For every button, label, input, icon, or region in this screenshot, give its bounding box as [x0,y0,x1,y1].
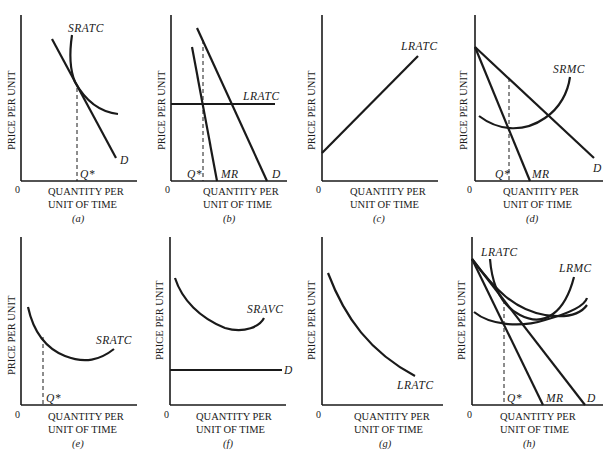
sratc-label: SRATC [68,22,104,34]
panel-caption: (g) [379,438,392,450]
panel-e: PRICE PER UNIT 0 QUANTITY PER UNIT OF TI… [6,237,137,450]
panel-caption: (h) [523,438,536,450]
panel-c: PRICE PER UNIT 0 QUANTITY PER UNIT OF TI… [306,15,438,225]
panel-caption: (a) [72,213,85,225]
q-star-label: Q* [187,168,202,180]
panel-b: PRICE PER UNIT 0 QUANTITY PER UNIT OF TI… [156,15,287,225]
lratc-label: LRATC [480,246,518,258]
mr-line [475,47,530,181]
lrmc-label: LRMC [558,262,592,274]
sratc-label: SRATC [96,334,132,346]
panel-caption: (f) [223,438,233,450]
lratc-line [322,56,418,153]
q-star-label: Q* [507,392,522,404]
panel-a: PRICE PER UNIT 0 QUANTITY PER UNIT OF TI… [6,15,137,225]
x-axis-label-line2: UNIT OF TIME [350,199,419,210]
panel-caption: (c) [373,213,385,225]
x-axis-label-line2: UNIT OF TIME [503,199,572,210]
demand-label: D [592,162,602,174]
cost-curves-figure: PRICE PER UNIT 0 QUANTITY PER UNIT OF TI… [0,0,609,453]
origin-label: 0 [316,184,321,195]
y-axis-label: PRICE PER UNIT [458,70,469,150]
origin-label: 0 [165,184,170,195]
mr-line [472,259,543,405]
lratc-label: LRATC [400,40,438,52]
origin-label: 0 [316,409,321,420]
x-axis-label-line1: QUANTITY PER [196,411,272,422]
origin-label: 0 [467,184,472,195]
origin-label: 0 [15,409,20,420]
y-axis-label: PRICE PER UNIT [306,70,317,150]
srmc-label: SRMC [553,63,585,75]
lratc-label: LRATC [396,379,434,391]
x-axis-label-line2: UNIT OF TIME [48,424,117,435]
origin-label: 0 [164,409,169,420]
q-star-label: Q* [80,168,95,180]
demand-label: D [271,168,281,180]
x-axis-label-line1: QUANTITY PER [503,186,579,197]
origin-label: 0 [15,184,20,195]
demand-line [52,39,116,158]
panel-caption: (d) [526,213,539,225]
mr-label: MR [531,168,550,180]
mr-label: MR [220,168,239,180]
panel-caption: (b) [223,213,236,225]
q-star-label: Q* [46,392,61,404]
y-axis-label: PRICE PER UNIT [306,280,317,360]
demand-label: D [283,364,293,376]
panel-d: PRICE PER UNIT 0 QUANTITY PER UNIT OF TI… [458,15,603,225]
lratc-curve [328,273,415,376]
x-axis-label-line1: QUANTITY PER [500,411,576,422]
panel-h: PRICE PER UNIT 0 QUANTITY PER UNIT OF TI… [456,237,603,450]
x-axis-label-line1: QUANTITY PER [350,186,426,197]
q-star-label: Q* [495,168,510,180]
x-axis-label-line2: UNIT OF TIME [500,424,569,435]
lratc-label: LRATC [242,90,280,102]
figure-canvas: PRICE PER UNIT 0 QUANTITY PER UNIT OF TI… [0,0,609,453]
sravc-label: SRAVC [247,303,283,315]
x-axis-label-line1: QUANTITY PER [48,411,124,422]
y-axis-label: PRICE PER UNIT [6,70,17,150]
x-axis-label-line1: QUANTITY PER [203,186,279,197]
origin-label: 0 [467,409,472,420]
mr-line [192,47,217,181]
srmc-curve [479,77,570,128]
demand-label: D [119,154,129,166]
x-axis-label-line1: QUANTITY PER [354,411,430,422]
y-axis-label: PRICE PER UNIT [456,280,467,360]
x-axis-label-line2: UNIT OF TIME [48,199,117,210]
y-axis-label: PRICE PER UNIT [154,280,165,360]
panel-f: PRICE PER UNIT 0 QUANTITY PER UNIT OF TI… [154,237,293,450]
panel-caption: (e) [72,438,84,450]
demand-label: D [586,392,596,404]
panel-g: PRICE PER UNIT 0 QUANTITY PER UNIT OF TI… [306,237,443,450]
x-axis-label-line1: QUANTITY PER [48,186,124,197]
mr-label: MR [545,392,564,404]
y-axis-label: PRICE PER UNIT [156,70,167,150]
x-axis-label-line2: UNIT OF TIME [203,199,272,210]
x-axis-label-line2: UNIT OF TIME [354,424,423,435]
y-axis-label: PRICE PER UNIT [6,295,17,375]
x-axis-label-line2: UNIT OF TIME [196,424,265,435]
